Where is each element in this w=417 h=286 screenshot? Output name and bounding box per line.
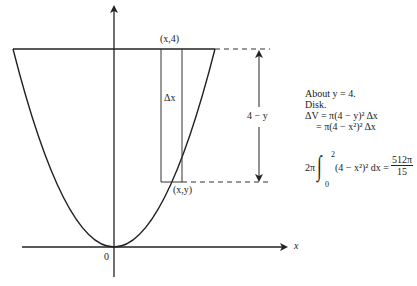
label-radius: 4 − y [247, 110, 268, 121]
label-delta-x: Δx [164, 92, 175, 103]
diagram-canvas [0, 0, 417, 286]
label-point-top: (x,4) [160, 33, 179, 44]
integral-expression: 2π ∫ 2 0 (4 − x²)² dx = 512π 15 [305, 150, 417, 200]
integral-sign-icon: ∫ [317, 152, 322, 180]
label-origin: 0 [104, 251, 109, 262]
note-axis: About y = 4. [305, 88, 378, 99]
integral-lower-limit: 0 [325, 180, 329, 189]
label-point-curve: (x,y) [173, 184, 192, 195]
note-delta-v: ΔV = π(4 − y)² Δx [305, 110, 378, 121]
integral-coefficient: 2π [305, 162, 315, 173]
result-denominator: 15 [391, 166, 413, 177]
result-numerator: 512π [391, 154, 413, 166]
integral-result: 512π 15 [391, 154, 413, 177]
label-x-axis: x [294, 240, 298, 251]
note-method: Disk. [305, 99, 378, 110]
note-delta-v-sub: = π(4 − x²)² Δx [305, 121, 378, 132]
integrand: (4 − x²)² dx = [335, 162, 389, 173]
integral-upper-limit: 2 [331, 150, 335, 159]
solution-notes: About y = 4. Disk. ΔV = π(4 − y)² Δx = π… [305, 88, 378, 132]
